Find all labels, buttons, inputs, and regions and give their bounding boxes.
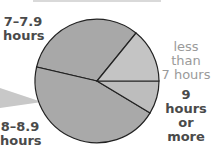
label-line1: 9 hours [160, 88, 211, 116]
label-line2: hours [0, 134, 40, 148]
label-line1: less than [160, 40, 211, 68]
label-line2: or more [160, 116, 211, 144]
label-8-to-8.9-hours: 8–8.9 hours [0, 120, 40, 148]
label-line2: 7 hours [160, 68, 211, 82]
label-line2: hours [3, 29, 43, 43]
label-7-to-7.9-hours: 7–7.9 hours [3, 15, 43, 43]
label-less-than-7-hours: less than 7 hours [160, 40, 211, 82]
label-line1: 8–8.9 [0, 120, 40, 134]
label-line1: 7–7.9 [3, 15, 43, 29]
label-9-hours-or-more: 9 hours or more [160, 88, 211, 144]
